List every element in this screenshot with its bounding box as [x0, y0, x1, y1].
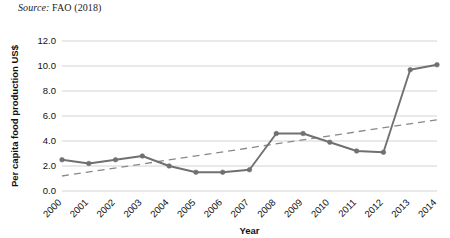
- data-point-marker: [301, 131, 306, 136]
- data-point-marker: [86, 161, 91, 166]
- x-axis-tick-label: 2006: [201, 197, 224, 220]
- x-axis-tick-label: 2014: [416, 197, 439, 220]
- y-axis-tick-label: 8.0: [43, 85, 56, 96]
- x-axis-tick-label: 2011: [336, 197, 358, 219]
- data-series-line: [62, 65, 437, 173]
- data-point-marker: [167, 164, 172, 169]
- y-axis-tick-label: 10.0: [38, 60, 57, 71]
- y-axis-tick-label: 4.0: [43, 135, 56, 146]
- data-point-marker: [113, 157, 118, 162]
- data-point-marker: [220, 170, 225, 175]
- y-axis-tick-label: 12.0: [38, 35, 57, 46]
- x-axis-tick-label: 2007: [228, 197, 251, 220]
- y-axis-tick-label: 0.0: [43, 185, 56, 196]
- chart-figure: Source: FAO (2018) 0.02.04.06.08.010.012…: [0, 0, 450, 238]
- data-point-marker: [435, 62, 440, 67]
- x-axis-tick-label: 2001: [67, 197, 90, 220]
- x-axis-tick-label: 2000: [41, 197, 64, 220]
- y-axis-title: Per capita food production US$: [9, 44, 20, 187]
- x-axis-tick-labels: 2000200120022003200420052006200720082009…: [41, 197, 439, 220]
- y-axis-tick-label: 6.0: [43, 110, 56, 121]
- x-axis-tick-label: 2002: [94, 197, 117, 220]
- x-axis-tick-label: 2010: [309, 197, 332, 220]
- data-point-marker: [140, 154, 145, 159]
- data-point-marker: [381, 150, 386, 155]
- data-point-marker: [247, 167, 252, 172]
- x-axis-tick-label: 2004: [148, 197, 171, 220]
- data-point-marker: [354, 149, 359, 154]
- x-axis-tick-label: 2008: [255, 197, 278, 220]
- data-point-marker: [60, 157, 65, 162]
- line-chart-plot: 0.02.04.06.08.010.012.0 2000200120022003…: [0, 0, 450, 238]
- x-axis-tick-label: 2005: [175, 197, 198, 220]
- data-point-marker: [408, 67, 413, 72]
- x-axis-tick-label: 2013: [389, 197, 412, 220]
- y-axis-tick-label: 2.0: [43, 160, 56, 171]
- x-axis-title: Year: [239, 225, 259, 236]
- x-axis-tick-label: 2009: [282, 197, 305, 220]
- data-point-marker: [328, 140, 333, 145]
- y-axis-tick-labels: 0.02.04.06.08.010.012.0: [38, 35, 57, 196]
- x-axis-tick-label: 2012: [362, 197, 385, 220]
- data-point-markers: [60, 62, 440, 174]
- data-point-marker: [194, 170, 199, 175]
- data-point-marker: [274, 131, 279, 136]
- x-axis-tick-label: 2003: [121, 197, 144, 220]
